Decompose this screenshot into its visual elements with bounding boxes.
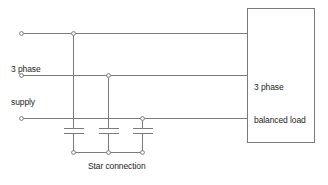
- star-connection-label: Star connection: [88, 161, 146, 172]
- load-label: 3 phase balanced load: [254, 60, 306, 148]
- neutral-node-1: [72, 151, 76, 155]
- circuit-diagram: 3 phase supply 3 phase balanced load Sta…: [0, 0, 328, 185]
- load-label-line1: 3 phase: [254, 82, 306, 93]
- neutral-node-3: [141, 151, 145, 155]
- supply-terminal-1: [20, 32, 24, 36]
- supply-label-line2: supply: [11, 97, 41, 108]
- supply-label-line1: 3 phase: [11, 64, 41, 75]
- load-label-line2: balanced load: [254, 115, 306, 126]
- tap-node-3: [141, 117, 145, 121]
- supply-label: 3 phase supply: [11, 42, 41, 130]
- tap-node-2: [107, 74, 111, 78]
- tap-node-1: [72, 32, 76, 36]
- neutral-node-2: [107, 151, 111, 155]
